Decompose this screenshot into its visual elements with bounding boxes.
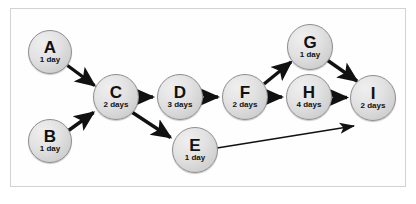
node-h-label: H (303, 85, 315, 100)
node-b[interactable]: B 1 day (28, 119, 72, 163)
edge-g-to-i (327, 60, 357, 81)
node-b-label: B (44, 129, 56, 144)
edge-e-to-i (217, 126, 354, 148)
node-c-duration: 2 days (104, 101, 129, 109)
node-b-duration: 1 day (40, 145, 60, 153)
node-f-label: F (240, 85, 250, 100)
diagram-canvas: A 1 day B 1 day C 2 days D 3 days E 1 da… (0, 0, 416, 204)
node-i-label: I (371, 86, 376, 101)
node-e[interactable]: E 1 day (172, 127, 218, 173)
node-f[interactable]: F 2 days (222, 74, 268, 120)
node-c-label: C (110, 85, 122, 100)
node-f-duration: 2 days (233, 101, 258, 109)
edge-b-to-c (69, 113, 94, 131)
node-a-label: A (44, 40, 56, 55)
node-h[interactable]: H 4 days (286, 74, 332, 120)
node-i-duration: 2 days (361, 102, 386, 110)
node-h-duration: 4 days (297, 101, 322, 109)
node-g-duration: 1 day (300, 51, 320, 59)
edge-c-to-e (133, 113, 171, 138)
node-g-label: G (303, 35, 316, 50)
node-i[interactable]: I 2 days (350, 75, 396, 121)
node-d-label: D (174, 85, 186, 100)
node-d[interactable]: D 3 days (157, 74, 203, 120)
edge-a-to-c (68, 66, 95, 86)
node-c[interactable]: C 2 days (93, 74, 139, 120)
node-a-duration: 1 day (40, 56, 60, 64)
node-a[interactable]: A 1 day (28, 30, 72, 74)
node-e-label: E (189, 138, 200, 153)
node-e-duration: 1 day (185, 154, 205, 162)
node-d-duration: 3 days (168, 101, 193, 109)
node-g[interactable]: G 1 day (287, 24, 333, 70)
edge-f-to-g (264, 62, 291, 84)
